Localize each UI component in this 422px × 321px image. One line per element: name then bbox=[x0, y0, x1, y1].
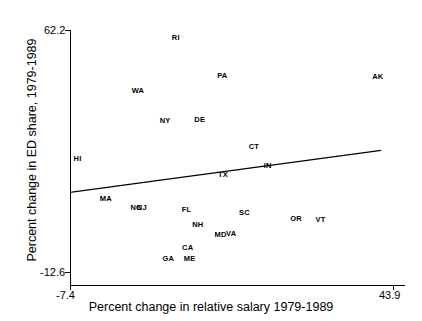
data-point-tx: TX bbox=[218, 170, 228, 179]
data-point-ny: NY bbox=[160, 115, 171, 124]
data-point-de: DE bbox=[194, 114, 205, 123]
data-point-in: IN bbox=[264, 160, 272, 169]
data-point-pa: PA bbox=[217, 70, 227, 79]
data-point-nh: NH bbox=[192, 219, 203, 228]
data-point-ak: AK bbox=[372, 71, 383, 80]
data-point-ca: CA bbox=[182, 243, 193, 252]
data-point-va: VA bbox=[226, 228, 236, 237]
data-point-sc: SC bbox=[239, 207, 250, 216]
data-point-ct: CT bbox=[249, 142, 259, 151]
data-point-ri: RI bbox=[172, 33, 180, 42]
trend-line bbox=[0, 0, 422, 321]
data-point-md: MD bbox=[214, 229, 226, 238]
data-point-hi: HI bbox=[74, 154, 82, 163]
data-point-nj: NJ bbox=[137, 202, 147, 211]
data-point-wa: WA bbox=[132, 86, 144, 95]
data-point-me: ME bbox=[184, 254, 196, 263]
data-point-fl: FL bbox=[182, 205, 192, 214]
data-point-ga: GA bbox=[162, 254, 174, 263]
scatter-plot: 62.2 -12.6 -7.4 43.9 Percent change in r… bbox=[0, 0, 422, 321]
data-point-or: OR bbox=[290, 214, 302, 223]
data-point-ma: MA bbox=[100, 193, 112, 202]
data-point-vt: VT bbox=[316, 215, 326, 224]
